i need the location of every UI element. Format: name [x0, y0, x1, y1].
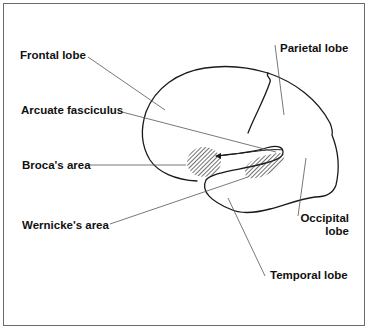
- leader-frontal-lobe: [88, 57, 165, 110]
- leader-parietal-lobe: [275, 45, 284, 115]
- leader-occipital-lobe: [298, 158, 306, 216]
- label-brocas-area: Broca's area: [22, 159, 91, 171]
- leader-wernickes-area: [110, 177, 248, 224]
- central-sulcus: [248, 73, 270, 133]
- brain-outline: [143, 66, 339, 212]
- label-wernickes-area: Wernicke's area: [22, 219, 110, 231]
- label-occipital-lobe-line2: lobe: [325, 225, 349, 237]
- label-parietal-lobe: Parietal lobe: [280, 42, 348, 54]
- leader-arcuate-fasciculus: [122, 112, 276, 152]
- label-arcuate-fasciculus: Arcuate fasciculus: [21, 104, 123, 116]
- label-temporal-lobe: Temporal lobe: [270, 269, 348, 281]
- wernickes-area-region: [245, 153, 284, 178]
- leader-temporal-lobe: [228, 198, 265, 276]
- label-occipital-lobe-line1: Occipital: [300, 212, 349, 224]
- brain-diagram: Frontal lobe Parietal lobe Arcuate fasci…: [0, 0, 370, 331]
- brocas-area-region: [187, 147, 221, 177]
- label-frontal-lobe: Frontal lobe: [20, 49, 86, 61]
